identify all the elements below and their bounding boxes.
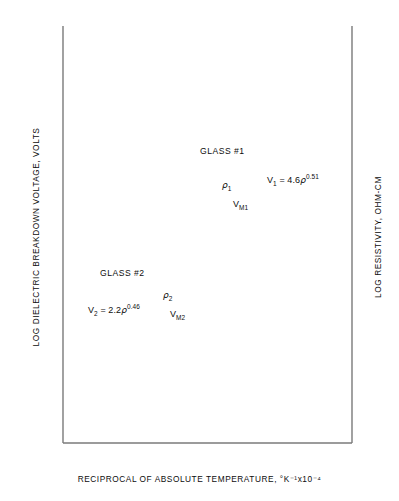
figure-container: LOG DIELECTRIC BREAKDOWN VOLTAGE, VOLTS … [0, 0, 399, 501]
annotation-vm-1: VM1 [233, 199, 248, 211]
annotation-equation-2: V2 = 2.2ρ0.46 [88, 303, 140, 317]
eq-1-exponent: 0.51 [306, 173, 319, 180]
vm-1-subscript-1: 1 [245, 204, 249, 211]
y-axis-right-title: LOG RESISTIVITY, OHM-CM [373, 97, 383, 377]
annotation-glass-1: GLASS #1 [200, 146, 245, 156]
annotation-rho-2: ρ2 [163, 290, 173, 302]
y-axis-left-title: LOG DIELECTRIC BREAKDOWN VOLTAGE, VOLTS [31, 97, 41, 377]
annotation-rho-1: ρ1 [222, 180, 232, 192]
eq-2-exponent: 0.46 [127, 303, 140, 310]
annotation-equation-1: V1 = 4.6ρ0.51 [267, 173, 319, 187]
rho-2-subscript: 2 [169, 295, 173, 302]
x-axis-title: RECIPROCAL OF ABSOLUTE TEMPERATURE, °K⁻¹… [0, 474, 399, 484]
annotation-glass-2: GLASS #2 [100, 268, 145, 278]
chart-canvas [0, 0, 399, 501]
axes [63, 26, 352, 443]
eq-1-rhs: = 4.6 [277, 175, 300, 185]
eq-2-rhs: = 2.2 [98, 305, 121, 315]
annotation-vm-2: VM2 [170, 309, 185, 321]
rho-1-subscript: 1 [228, 185, 232, 192]
vm-2-subscript-2: 2 [182, 314, 186, 321]
